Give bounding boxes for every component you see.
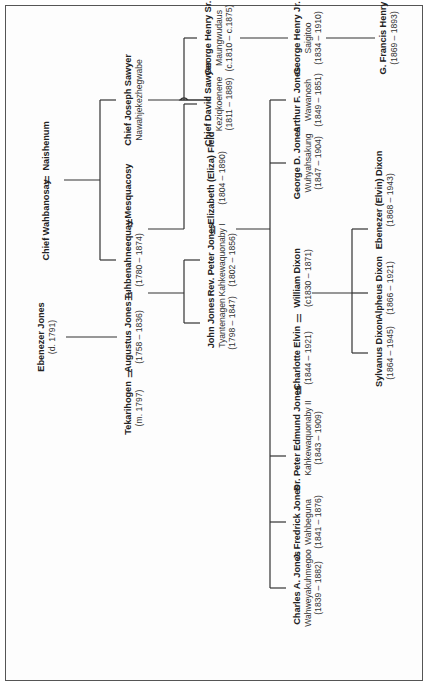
marriage-symbol: = bbox=[206, 225, 219, 236]
person-name: Arthur F. Jones bbox=[292, 67, 303, 133]
person-j-fredrick-jones: J. Fredrick Jones Wahbeguna (1841 – 1876… bbox=[292, 485, 324, 560]
person-name: Sylvanus Dixon bbox=[374, 319, 385, 387]
person-native-name: Nawahjekezhegwabe bbox=[134, 54, 145, 146]
person-william-dixon: William Dixon (c1830 – 1871) bbox=[292, 248, 313, 308]
person-native-name: Wahbeguna bbox=[303, 485, 314, 560]
person-dates: (1802 – 1856) bbox=[227, 223, 238, 296]
marriage-symbol: = bbox=[292, 313, 305, 324]
person-name: Chief Wahbanosay bbox=[41, 179, 52, 260]
person-name: Charles A. Jones bbox=[292, 549, 303, 627]
person-george-henry-jr: George Henry Jr. Saigitoo (1834 – 1910) bbox=[292, 1, 324, 74]
person-name: George D. Jones bbox=[292, 127, 303, 199]
person-name: Tuhbenahneequay bbox=[123, 220, 134, 300]
person-name: Ebenezer Jones bbox=[36, 302, 47, 371]
person-chief-joseph-sawyer: Chief Joseph Sawyer Nawahjekezhegwabe bbox=[123, 54, 144, 146]
person-native-name: Wuhyahsakung bbox=[303, 127, 314, 199]
person-native-name: Wawanosh bbox=[303, 67, 314, 133]
person-dates: (d. 1791) bbox=[47, 302, 58, 371]
person-dates: (1869 – 1893) bbox=[389, 2, 400, 75]
person-dates: (1839 – 1882) bbox=[313, 549, 324, 627]
person-name: Alpheus Dixon bbox=[374, 256, 385, 320]
person-dates: (c.1810 – c.1875) bbox=[224, 1, 235, 75]
person-naishenum: Naishenum bbox=[41, 121, 52, 170]
person-chief-wahbanosay: Chief Wahbanosay bbox=[41, 179, 52, 260]
person-name: George Henry Sr. bbox=[203, 1, 214, 75]
person-native-name: Maungwudaus bbox=[214, 1, 225, 75]
person-dates: (1849 – 1851) bbox=[313, 67, 324, 133]
person-dates: (1864 – 1945) bbox=[385, 319, 396, 387]
person-dates: (1844 – 1921) bbox=[303, 326, 314, 390]
person-name: William Dixon bbox=[292, 248, 303, 308]
person-arthur-f-jones: Arthur F. Jones Wawanosh (1849 – 1851) bbox=[292, 67, 324, 133]
person-george-d-jones: George D. Jones Wuhyahsakung (1847 – 190… bbox=[292, 127, 324, 199]
person-dates: (1866 – 1921) bbox=[385, 256, 396, 320]
person-dates: (1834 – 1910) bbox=[313, 1, 324, 74]
person-native-name: Tyantenagen bbox=[217, 296, 228, 350]
person-ebenezer-elvin-dixon: Ebenezer (Elvin) Dixon (1868 – 1943) bbox=[374, 151, 395, 250]
person-name: G. Francis Henry bbox=[378, 2, 389, 75]
person-sylvanus-dixon: Sylvanus Dixon (1864 – 1945) bbox=[374, 319, 395, 387]
person-alpheus-dixon: Alpheus Dixon (1866 – 1921) bbox=[374, 256, 395, 320]
person-dates: (1758 – 1836) bbox=[134, 302, 145, 373]
person-dates: (c1830 – 1871) bbox=[303, 248, 314, 308]
person-ebenezer-jones: Ebenezer Jones (d. 1791) bbox=[36, 302, 57, 371]
person-dates: (1798 – 1847) bbox=[227, 296, 238, 350]
person-name: Ebenezer (Elvin) Dixon bbox=[374, 151, 385, 250]
person-name: Augustus Jones bbox=[123, 302, 134, 373]
person-native-name: Wahweyakuhmegoo bbox=[303, 549, 314, 627]
person-tuhbenahneequay: Tuhbenahneequay (1780 – 1874) bbox=[123, 220, 144, 300]
person-dr-peter-edmund-jones: Dr. Peter Edmund Jones Kahkewaquonaby II… bbox=[292, 385, 324, 490]
person-name: Mesquacosy bbox=[123, 164, 134, 219]
person-tekarihogen: Tekarihogen (m. 1797) bbox=[123, 381, 144, 435]
person-george-henry-sr: George Henry Sr. Maungwudaus (c.1810 – c… bbox=[203, 1, 235, 75]
person-dates: (1843 – 1909) bbox=[313, 385, 324, 490]
person-augustus-jones: Augustus Jones (1758 – 1836) bbox=[123, 302, 144, 373]
person-charlotte-elvin: Charlotte Elvin (1844 – 1921) bbox=[292, 326, 313, 390]
person-dates: (1841 – 1876) bbox=[313, 485, 324, 560]
person-name: Tekarihogen bbox=[123, 381, 134, 435]
marriage-symbol: = bbox=[123, 218, 136, 229]
person-name: John Jones bbox=[206, 296, 217, 350]
person-dates: (m. 1797) bbox=[134, 381, 145, 435]
person-name: Dr. Peter Edmund Jones bbox=[292, 385, 303, 490]
person-name: George Henry Jr. bbox=[292, 1, 303, 74]
person-dates: (1868 – 1943) bbox=[385, 151, 396, 250]
person-mesquacosy: Mesquacosy bbox=[123, 164, 134, 219]
person-name: J. Fredrick Jones bbox=[292, 485, 303, 560]
person-native-name: Kahkewaquonaby II bbox=[303, 385, 314, 490]
person-name: Charlotte Elvin bbox=[292, 326, 303, 390]
person-charles-a-jones: Charles A. Jones Wahweyakuhmegoo (1839 –… bbox=[292, 549, 324, 627]
person-native-name: Saigitoo bbox=[303, 1, 314, 74]
person-name: Chief Joseph Sawyer bbox=[123, 54, 134, 146]
marriage-symbol: = bbox=[40, 175, 53, 186]
person-dates: (1780 – 1874) bbox=[134, 220, 145, 300]
person-john-jones: John Jones Tyantenagen (1798 – 1847) bbox=[206, 296, 238, 350]
family-tree-canvas: Ebenezer Jones (d. 1791) Chief Wahbanosa… bbox=[0, 0, 429, 688]
person-dates: (1847 – 1904) bbox=[313, 127, 324, 199]
person-name: Naishenum bbox=[41, 121, 52, 170]
person-g-francis-henry: G. Francis Henry (1869 – 1893) bbox=[378, 2, 399, 75]
